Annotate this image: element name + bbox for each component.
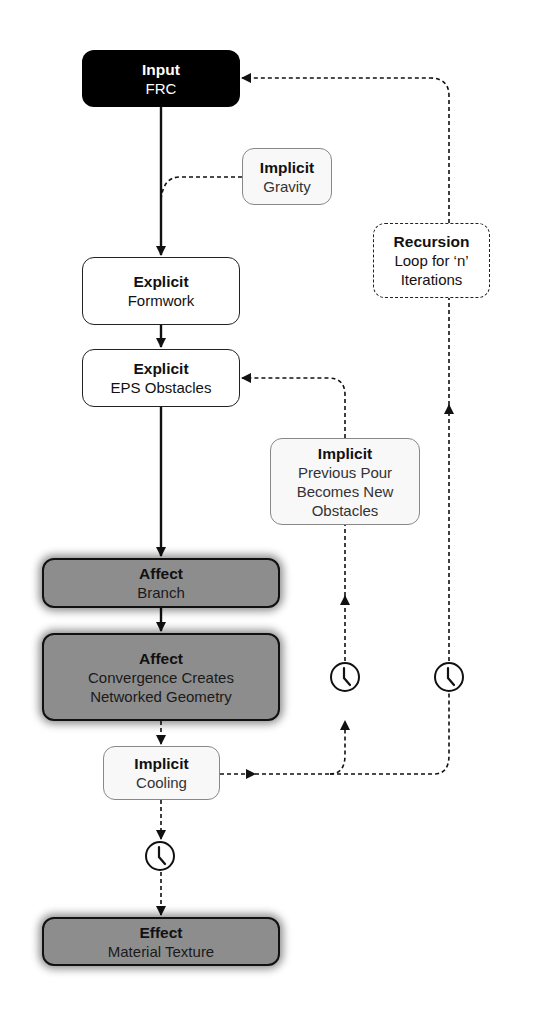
node-subtitle: Cooling <box>136 773 187 792</box>
node-line: Networked Geometry <box>90 687 232 706</box>
node-line: Convergence Creates <box>88 668 234 687</box>
node-subtitle: EPS Obstacles <box>111 378 212 397</box>
node-explicit-formwork[interactable]: Explicit Formwork <box>82 257 240 325</box>
node-implicit-previous-pour[interactable]: Implicit Previous Pour Becomes New Obsta… <box>270 438 420 525</box>
node-line: Obstacles <box>312 501 379 520</box>
node-title: Recursion <box>394 232 470 251</box>
node-line: Becomes New <box>297 482 394 501</box>
node-explicit-eps-obstacles[interactable]: Explicit EPS Obstacles <box>82 349 240 407</box>
node-subtitle: Formwork <box>128 291 195 310</box>
node-line: Previous Pour <box>298 463 392 482</box>
node-subtitle: Gravity <box>263 177 311 196</box>
node-title: Input <box>142 60 180 79</box>
node-affect-convergence[interactable]: Affect Convergence Creates Networked Geo… <box>42 633 280 721</box>
node-subtitle: Branch <box>137 583 185 602</box>
node-affect-branch[interactable]: Affect Branch <box>42 558 280 608</box>
node-subtitle: FRC <box>146 79 177 98</box>
node-line: Loop for ‘n’ <box>394 251 468 270</box>
node-line: Iterations <box>401 270 463 289</box>
node-input-frc[interactable]: Input FRC <box>82 50 240 107</box>
node-implicit-gravity[interactable]: Implicit Gravity <box>242 148 332 205</box>
node-title: Implicit <box>318 444 372 463</box>
node-subtitle: Material Texture <box>108 942 214 961</box>
node-title: Explicit <box>133 272 188 291</box>
node-title: Affect <box>139 564 183 583</box>
node-recursion[interactable]: Recursion Loop for ‘n’ Iterations <box>373 223 490 298</box>
node-title: Affect <box>139 649 183 668</box>
node-title: Explicit <box>133 359 188 378</box>
node-effect-material-texture[interactable]: Effect Material Texture <box>42 917 280 966</box>
node-title: Effect <box>139 923 182 942</box>
node-title: Implicit <box>260 158 314 177</box>
node-title: Implicit <box>134 754 188 773</box>
node-implicit-cooling[interactable]: Implicit Cooling <box>103 746 220 800</box>
